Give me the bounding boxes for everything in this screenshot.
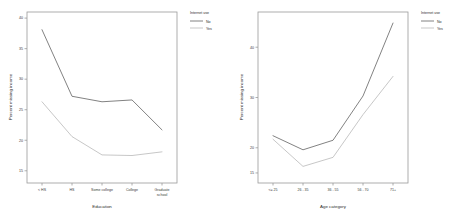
legend-label-yes: Yes	[206, 27, 212, 31]
x-tick-label: school	[157, 193, 168, 197]
education-line-chart: 152025303540 < HSHSSome collegeCollegeGr…	[0, 0, 231, 219]
x-tick-label: 36 - 55	[327, 188, 338, 192]
x-tick-label: College	[126, 188, 138, 192]
legend-title: Internet use	[421, 11, 440, 15]
legend-label-yes: Yes	[437, 27, 443, 31]
figure-root: 152025303540 < HSHSSome collegeCollegeGr…	[0, 0, 462, 219]
x-tick-label: 71+	[390, 188, 396, 192]
series-line-yes	[273, 76, 393, 166]
y-tick-label: 20	[250, 146, 254, 150]
x-axis-education: < HSHSSome collegeCollegeGraduateschool	[38, 183, 170, 197]
chart-panel-age: 15203040 <= 2526 - 3536 - 5556 - 7071+ A…	[231, 0, 462, 219]
y-tick-label: 25	[19, 108, 23, 112]
y-tick-label: 15	[19, 169, 23, 173]
y-tick-label: 35	[19, 47, 23, 51]
x-tick-label: 56 - 70	[357, 188, 368, 192]
y-axis-education: 152025303540	[19, 16, 27, 173]
x-tick-label: 26 - 35	[297, 188, 308, 192]
y-tick-label: 40	[250, 46, 254, 50]
x-axis-title: Education	[92, 204, 112, 209]
y-tick-label: 30	[19, 77, 23, 81]
legend-age: Internet use No Yes	[421, 11, 443, 31]
legend-label-no: No	[206, 20, 211, 24]
plot-frame	[27, 12, 177, 183]
chart-panel-education: 152025303540 < HSHSSome collegeCollegeGr…	[0, 0, 231, 219]
plot-area-age: 15203040 <= 2526 - 3536 - 5556 - 7071+	[250, 12, 408, 192]
x-tick-label: < HS	[38, 188, 47, 192]
legend-item-yes[interactable]: Yes	[190, 27, 212, 31]
y-axis-title: Percent missing income	[8, 73, 13, 120]
x-tick-label: Some college	[91, 188, 113, 192]
legend-item-no[interactable]: No	[190, 20, 211, 24]
y-tick-label: 15	[250, 171, 254, 175]
legend-title: Internet use	[190, 11, 209, 15]
y-tick-label: 40	[19, 16, 23, 20]
plot-area-education: 152025303540 < HSHSSome collegeCollegeGr…	[19, 12, 177, 197]
legend-item-no[interactable]: No	[421, 20, 442, 24]
y-tick-label: 20	[19, 139, 23, 143]
x-tick-label: <= 25	[268, 188, 277, 192]
age-line-chart: 15203040 <= 2526 - 3536 - 5556 - 7071+ A…	[231, 0, 462, 219]
y-axis-age: 15203040	[250, 46, 258, 176]
legend-education: Internet use No Yes	[190, 11, 212, 31]
series-group-age	[273, 23, 393, 166]
y-axis-title: Percent missing income	[239, 73, 244, 120]
series-line-no	[42, 30, 162, 130]
series-group-education	[42, 30, 162, 156]
y-tick-label: 30	[250, 96, 254, 100]
legend-item-yes[interactable]: Yes	[421, 27, 443, 31]
x-tick-label: Graduate	[155, 188, 170, 192]
series-line-no	[273, 23, 393, 150]
x-axis-title: Age category	[320, 204, 347, 209]
x-axis-age: <= 2526 - 3536 - 5556 - 7071+	[268, 183, 396, 192]
legend-label-no: No	[437, 20, 442, 24]
series-line-yes	[42, 102, 162, 156]
x-tick-label: HS	[70, 188, 76, 192]
